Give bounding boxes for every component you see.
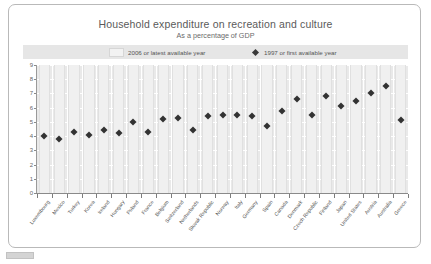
chart-subtitle: As a percentage of GDP	[9, 31, 422, 40]
gridline-vertical	[200, 65, 201, 193]
bar	[217, 65, 228, 193]
legend-label-2006: 2006 or latest available year	[128, 49, 205, 56]
gridline-vertical	[96, 65, 97, 193]
gridline-vertical	[171, 65, 172, 193]
y-axis-tick-label: 6	[30, 105, 33, 111]
x-axis-tick-mark	[96, 194, 97, 198]
x-axis-tick-mark	[378, 194, 379, 198]
y-axis-tick-label: 4	[30, 133, 33, 139]
gridline-vertical	[274, 65, 275, 193]
x-axis-tick-mark	[37, 194, 38, 198]
diamond-marker-icon	[252, 48, 259, 55]
x-axis-tick-mark	[245, 194, 246, 198]
x-axis-tick-mark	[289, 194, 290, 198]
x-axis-tick-mark	[200, 194, 201, 198]
legend-item-2006[interactable]: 2006 or latest available year	[109, 45, 205, 59]
gridline-vertical	[289, 65, 290, 193]
gridline-vertical	[141, 65, 142, 193]
bar	[158, 65, 169, 193]
gridline-vertical	[393, 65, 394, 193]
bar	[321, 65, 332, 193]
x-axis-tick-mark	[319, 194, 320, 198]
bar-swatch-icon	[109, 48, 124, 57]
x-axis-tick-mark	[304, 194, 305, 198]
x-axis-tick-mark	[349, 194, 350, 198]
gridline-vertical	[319, 65, 320, 193]
x-axis-tick-mark	[260, 194, 261, 198]
bar	[39, 65, 50, 193]
x-axis-tick-mark	[408, 194, 409, 198]
plot-area	[37, 65, 408, 193]
gridline-vertical	[363, 65, 364, 193]
x-axis-tick-mark	[126, 194, 127, 198]
gridline-vertical	[260, 65, 261, 193]
y-axis: 0123456789	[23, 65, 37, 193]
y-axis-tick-label: 0	[30, 190, 33, 196]
chart-legend: 2006 or latest available year 1997 or fi…	[23, 45, 408, 59]
x-axis-tick-mark	[185, 194, 186, 198]
gridline-vertical	[378, 65, 379, 193]
gridline-vertical	[111, 65, 112, 193]
x-axis-tick-mark	[141, 194, 142, 198]
x-axis-tick-mark	[334, 194, 335, 198]
bar	[83, 65, 94, 193]
bar	[202, 65, 213, 193]
gridline-vertical	[82, 65, 83, 193]
taskbar-chip[interactable]	[6, 252, 34, 259]
x-axis-tick-mark	[52, 194, 53, 198]
chart-card: Household expenditure on recreation and …	[8, 4, 421, 248]
x-axis-tick-mark	[82, 194, 83, 198]
bar	[128, 65, 139, 193]
gridline-vertical	[185, 65, 186, 193]
gridline-vertical	[156, 65, 157, 193]
gridline-vertical	[67, 65, 68, 193]
bar	[306, 65, 317, 193]
gridline-vertical	[52, 65, 53, 193]
x-axis-tick-mark	[274, 194, 275, 198]
x-axis-tick-mark	[393, 194, 394, 198]
x-axis-tick-mark	[215, 194, 216, 198]
gridline-vertical	[215, 65, 216, 193]
y-axis-tick-label: 9	[30, 62, 33, 68]
x-axis-tick-mark	[171, 194, 172, 198]
x-axis-tick-mark	[363, 194, 364, 198]
plot-area-wrapper: 0123456789 LuxembourgMexicoTurkeyKoreaIr…	[23, 65, 408, 205]
gridline-vertical	[126, 65, 127, 193]
chart-screenshot: Household expenditure on recreation and …	[0, 0, 431, 264]
gridline-vertical	[304, 65, 305, 193]
bar	[54, 65, 65, 193]
chart-title: Household expenditure on recreation and …	[9, 18, 422, 30]
gridline-vertical	[349, 65, 350, 193]
y-axis-tick-label: 3	[30, 147, 33, 153]
x-axis-tick-mark	[230, 194, 231, 198]
bar	[350, 65, 361, 193]
x-axis-tick-mark	[111, 194, 112, 198]
gridline-vertical	[245, 65, 246, 193]
legend-label-1997: 1997 or first available year	[264, 49, 337, 56]
y-axis-tick-label: 7	[30, 90, 33, 96]
bar	[247, 65, 258, 193]
bar	[291, 65, 302, 193]
bar	[276, 65, 287, 193]
y-axis-tick-label: 1	[30, 176, 33, 182]
x-axis-tick-mark	[156, 194, 157, 198]
legend-item-1997[interactable]: 1997 or first available year	[251, 45, 337, 59]
bar	[365, 65, 376, 193]
y-axis-tick-label: 5	[30, 119, 33, 125]
x-axis-tick-mark	[67, 194, 68, 198]
bar	[172, 65, 183, 193]
x-axis-labels: LuxembourgMexicoTurkeyKoreaIrelandHungar…	[37, 199, 408, 245]
bar	[395, 65, 406, 193]
y-axis-tick-label: 8	[30, 76, 33, 82]
y-axis-tick-label: 2	[30, 162, 33, 168]
